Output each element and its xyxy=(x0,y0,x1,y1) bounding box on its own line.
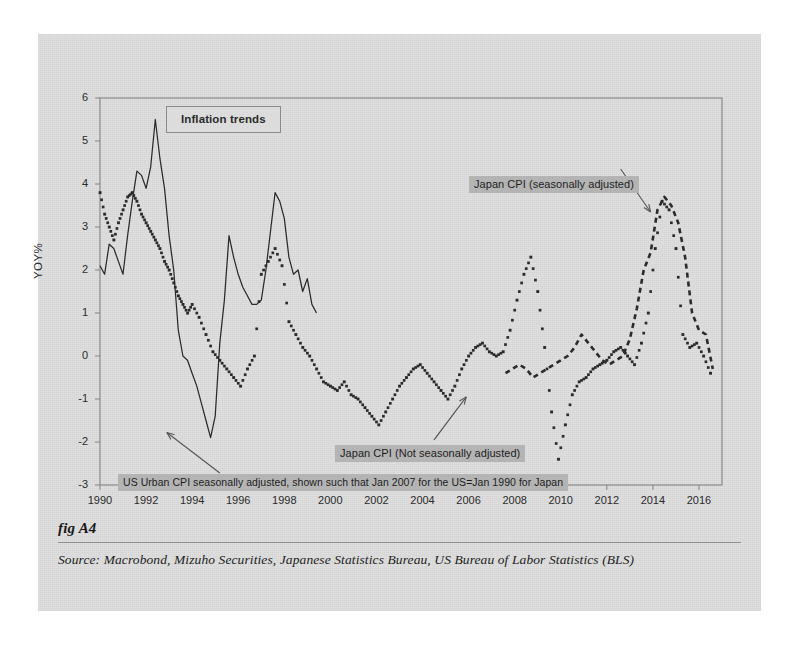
figure-caption-block: fig A4 Source: Macrobond, Mizuho Securit… xyxy=(58,520,741,568)
series-point-japan-cpi-nsa xyxy=(400,382,403,385)
series-point-japan-cpi-nsa xyxy=(143,219,146,222)
series-point-japan-cpi-nsa xyxy=(486,348,489,351)
series-point-japan-cpi-nsa xyxy=(500,352,503,355)
series-point-japan-cpi-nsa xyxy=(647,312,650,315)
series-point-japan-cpi-nsa xyxy=(421,366,424,369)
series-point-japan-cpi-nsa xyxy=(490,352,493,355)
series-point-japan-cpi-nsa xyxy=(642,332,645,335)
x-tick-label: 1994 xyxy=(172,494,212,506)
series-point-japan-cpi-nsa xyxy=(497,353,500,356)
series-point-japan-cpi-nsa xyxy=(693,343,696,346)
arrow-us-urban-cpi xyxy=(167,433,220,473)
series-point-japan-cpi-nsa xyxy=(281,264,284,267)
series-point-japan-cpi-nsa xyxy=(539,309,542,312)
series-point-japan-cpi-nsa xyxy=(665,206,668,209)
series-point-japan-cpi-nsa xyxy=(629,358,632,361)
series-point-japan-cpi-nsa xyxy=(543,346,546,349)
series-point-japan-cpi-nsa xyxy=(177,294,180,297)
series-point-japan-cpi-nsa xyxy=(596,365,599,368)
series-point-japan-cpi-nsa xyxy=(188,309,191,312)
x-tick-label: 2000 xyxy=(310,494,350,506)
series-point-japan-cpi-nsa xyxy=(479,343,482,346)
series-point-japan-cpi-nsa xyxy=(649,290,652,293)
series-point-japan-cpi-nsa xyxy=(691,345,694,348)
series-point-japan-cpi-nsa xyxy=(403,379,406,382)
series-point-japan-cpi-nsa xyxy=(223,365,226,368)
series-point-japan-cpi-nsa xyxy=(216,356,219,359)
series-point-japan-cpi-nsa xyxy=(191,303,194,306)
series-point-japan-cpi-nsa xyxy=(162,256,165,259)
series-point-japan-cpi-nsa xyxy=(571,393,574,396)
x-tick-label: 2012 xyxy=(587,494,627,506)
series-point-japan-cpi-nsa xyxy=(116,227,119,230)
series-point-japan-cpi-nsa xyxy=(504,343,507,346)
series-point-japan-cpi-nsa xyxy=(670,221,673,224)
series-point-japan-cpi-nsa xyxy=(242,379,245,382)
series-point-japan-cpi-nsa xyxy=(348,389,351,392)
chart-title-box: Inflation trends xyxy=(166,106,281,133)
series-point-japan-cpi-nsa xyxy=(324,382,327,385)
series-point-japan-cpi-nsa xyxy=(684,338,687,341)
series-point-japan-cpi-nsa xyxy=(396,389,399,392)
series-point-japan-cpi-nsa xyxy=(520,282,523,285)
y-tick-label: 0 xyxy=(66,349,88,361)
plot-frame xyxy=(100,98,722,485)
series-point-japan-cpi-nsa xyxy=(306,352,309,355)
series-point-japan-cpi-nsa xyxy=(112,239,115,242)
series-point-japan-cpi-nsa xyxy=(248,363,251,366)
series-point-japan-cpi-nsa xyxy=(364,406,367,409)
series-point-japan-cpi-nsa xyxy=(677,276,680,279)
series-point-japan-cpi-nsa xyxy=(202,327,205,330)
series-point-japan-cpi-nsa xyxy=(139,209,142,212)
series-point-japan-cpi-nsa xyxy=(182,303,185,306)
series-point-japan-cpi-nsa xyxy=(129,193,132,196)
series-point-japan-cpi-nsa xyxy=(179,297,182,300)
series-point-japan-cpi-nsa xyxy=(686,342,689,345)
series-point-japan-cpi-nsa xyxy=(267,260,270,263)
series-point-japan-cpi-nsa xyxy=(166,266,169,269)
series-point-japan-cpi-nsa xyxy=(652,269,655,272)
series-point-japan-cpi-nsa xyxy=(587,373,590,376)
series-point-japan-cpi-nsa xyxy=(672,234,675,237)
series-point-japan-cpi-nsa xyxy=(288,320,291,323)
caption-divider xyxy=(58,542,741,543)
series-point-japan-cpi-nsa xyxy=(564,423,567,426)
series-point-japan-cpi-nsa xyxy=(320,376,323,379)
series-point-japan-cpi-nsa xyxy=(472,349,475,352)
series-point-japan-cpi-nsa xyxy=(313,363,316,366)
series-point-japan-cpi-nsa xyxy=(334,388,337,391)
y-tick-label: 6 xyxy=(66,91,88,103)
series-point-japan-cpi-nsa xyxy=(285,302,288,305)
annotation-japan-cpi-nsa: Japan CPI (Not seasonally adjusted) xyxy=(335,445,525,462)
series-point-japan-cpi-nsa xyxy=(559,446,562,449)
series-point-japan-cpi-nsa xyxy=(610,353,613,356)
series-point-japan-cpi-nsa xyxy=(338,386,341,389)
series-point-japan-cpi-nsa xyxy=(617,348,620,351)
series-point-japan-cpi-nsa xyxy=(292,329,295,332)
inflation-trends-chart xyxy=(38,34,761,504)
series-point-japan-cpi-nsa xyxy=(477,345,480,348)
series-point-japan-cpi-nsa xyxy=(626,355,629,358)
series-point-japan-cpi-nsa xyxy=(142,216,145,219)
series-point-japan-cpi-nsa xyxy=(410,370,413,373)
series-point-japan-cpi-nsa xyxy=(359,401,362,404)
series-point-japan-cpi-nsa xyxy=(185,309,188,312)
series-point-japan-cpi-nsa xyxy=(343,380,346,383)
x-tick-label: 1992 xyxy=(126,494,166,506)
series-point-japan-cpi-nsa xyxy=(446,398,449,401)
y-tick-label: 5 xyxy=(66,134,88,146)
x-tick-label: 2008 xyxy=(495,494,535,506)
series-point-japan-cpi-nsa xyxy=(553,426,556,429)
x-tick-label: 1990 xyxy=(80,494,120,506)
series-point-japan-cpi-nsa xyxy=(345,385,348,388)
y-axis-title: YOY% xyxy=(32,243,44,279)
series-point-japan-cpi-nsa xyxy=(100,198,103,201)
series-point-japan-cpi-nsa xyxy=(375,421,378,424)
series-point-japan-cpi-nsa xyxy=(146,224,149,227)
series-point-japan-cpi-nsa xyxy=(557,458,560,461)
series-point-japan-cpi-nsa xyxy=(380,419,383,422)
series-point-japan-cpi-nsa xyxy=(135,200,138,203)
series-point-japan-cpi-nsa xyxy=(237,382,240,385)
series-point-japan-cpi-nsa xyxy=(465,359,468,362)
series-point-japan-cpi-nsa xyxy=(158,247,161,250)
